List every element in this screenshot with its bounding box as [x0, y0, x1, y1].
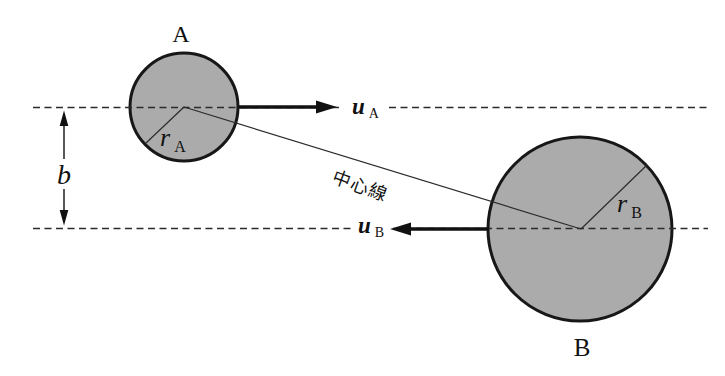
sphere-b-label: B [574, 334, 591, 361]
radius-b-symbol: r [617, 189, 628, 218]
impact-parameter-arrowhead-down [60, 210, 69, 226]
center-line-label: 中心線 [330, 167, 390, 205]
velocity-arrow-a-head [316, 101, 337, 114]
velocity-arrow-b-head [390, 223, 411, 236]
radius-b-subscript: B [631, 204, 642, 221]
impact-parameter-arrowhead-up [60, 111, 69, 127]
velocity-a-symbol: u [352, 94, 365, 119]
radius-a-subscript: A [174, 138, 186, 155]
velocity-b-label: u B [358, 213, 384, 240]
collision-diagram: A B b u A u B r A r B 中心線 [0, 0, 725, 376]
velocity-b-subscript: B [375, 225, 384, 240]
velocity-a-label: u A [352, 94, 380, 121]
velocity-b-symbol: u [358, 213, 371, 238]
impact-parameter-label: b [57, 159, 71, 190]
velocity-a-subscript: A [369, 106, 380, 121]
sphere-a-label: A [172, 21, 190, 47]
figure-canvas: A B b u A u B r A r B 中心線 [0, 0, 725, 376]
radius-a-symbol: r [160, 123, 171, 152]
